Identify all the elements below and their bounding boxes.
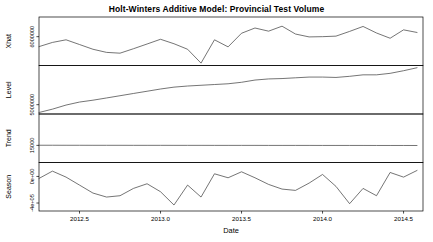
plot-area: 6000000Xhat5000000Level15000Trend-4e+050… (0, 0, 433, 242)
y-tick-label-season-1: 0e+00 (30, 169, 36, 185)
x-tick-label-0: 2012.5 (70, 215, 89, 222)
panel-frame-level (39, 66, 423, 115)
panel-frame-trend (39, 114, 423, 163)
panel-frame-season (39, 163, 423, 212)
x-axis-title: Date (223, 226, 239, 235)
y-axis-title-level: Level (5, 81, 12, 98)
data-line-season (39, 170, 417, 205)
x-tick-label-4: 2014.5 (394, 215, 413, 222)
plot-svg: 6000000Xhat5000000Level15000Trend-4e+050… (0, 0, 433, 242)
data-line-level (39, 68, 417, 113)
y-axis-title-trend: Trend (5, 129, 12, 147)
data-line-xhat (39, 26, 417, 63)
x-tick-label-2: 2013.5 (232, 215, 251, 222)
y-tick-label-xhat-0: 6000000 (30, 26, 36, 48)
x-tick-label-3: 2014.0 (313, 215, 332, 222)
y-tick-label-season-0: -4e+05 (30, 194, 36, 212)
chart-root: Holt-Winters Additive Model: Provincial … (0, 0, 433, 242)
y-axis-title-xhat: Xhat (5, 34, 12, 48)
panel-frame-xhat (39, 17, 423, 66)
y-tick-label-trend-0: 15000 (30, 138, 36, 154)
y-tick-label-level-0: 5000000 (30, 94, 36, 116)
y-axis-title-season: Season (5, 175, 12, 199)
x-tick-label-1: 2013.0 (151, 215, 170, 222)
